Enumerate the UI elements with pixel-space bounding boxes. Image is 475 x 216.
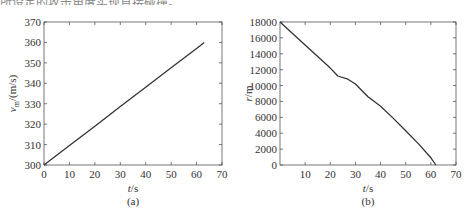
panel-label: (a) xyxy=(127,195,140,208)
y-tick-label: 370 xyxy=(25,16,42,28)
y-tick-label: 350 xyxy=(25,57,42,69)
x-tick-label: 0 xyxy=(41,168,47,180)
plot-frame xyxy=(44,22,222,165)
x-axis-label: t/s xyxy=(128,182,138,194)
data-line xyxy=(280,22,436,165)
plot-frame xyxy=(280,22,456,165)
chart-a: 010203040506070300310320330340350360370t… xyxy=(6,16,228,208)
y-tick-label: 320 xyxy=(25,118,42,130)
y-tick-label: 300 xyxy=(25,159,42,171)
x-tick-label: 60 xyxy=(191,168,203,180)
y-tick-label: 330 xyxy=(25,98,42,110)
y-tick-label: 310 xyxy=(25,139,42,151)
y-tick-label: 0 xyxy=(272,159,278,171)
x-tick-label: 40 xyxy=(140,168,152,180)
y-tick-label: 16000 xyxy=(250,32,278,44)
x-tick-label: 50 xyxy=(166,168,178,180)
y-axis-label: vm/(m/s) xyxy=(6,74,21,112)
y-tick-label: 6000 xyxy=(255,111,278,123)
x-tick-label: 50 xyxy=(400,168,412,180)
x-tick-label: 70 xyxy=(451,168,463,180)
x-tick-label: 30 xyxy=(115,168,127,180)
x-tick-label: 20 xyxy=(89,168,101,180)
x-tick-label: 70 xyxy=(217,168,229,180)
y-tick-label: 8000 xyxy=(255,95,278,107)
data-line xyxy=(44,42,204,165)
panel-label: (b) xyxy=(362,195,375,208)
y-tick-label: 18000 xyxy=(250,16,278,28)
charts-canvas: 010203040506070300310320330340350360370t… xyxy=(0,0,475,216)
y-tick-label: 2000 xyxy=(255,143,278,155)
x-tick-label: 60 xyxy=(425,168,437,180)
x-tick-label: 10 xyxy=(300,168,312,180)
y-tick-label: 12000 xyxy=(250,64,278,76)
y-tick-label: 14000 xyxy=(250,48,278,60)
x-tick-label: 20 xyxy=(325,168,337,180)
chart-b: 1020304050607002000400060008000100001200… xyxy=(242,16,462,208)
y-tick-label: 340 xyxy=(25,77,42,89)
x-tick-label: 30 xyxy=(350,168,362,180)
y-tick-label: 360 xyxy=(25,36,42,48)
y-axis-label: r/m xyxy=(242,85,254,101)
x-tick-label: 40 xyxy=(375,168,387,180)
x-axis-label: t/s xyxy=(363,182,373,194)
x-tick-label: 10 xyxy=(64,168,76,180)
y-tick-label: 4000 xyxy=(255,127,278,139)
